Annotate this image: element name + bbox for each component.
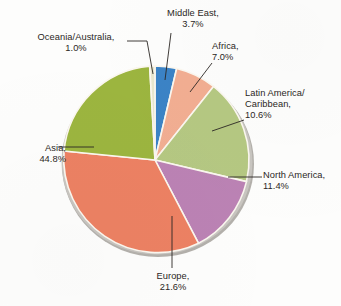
pie-label-latin-america: Latin America/ Caribbean, 10.6% bbox=[245, 88, 339, 122]
pie-slice-asia[interactable] bbox=[64, 66, 155, 160]
pie-label-asia: Asia, 44.8% bbox=[8, 143, 66, 165]
pie-label-oceania-australia: Oceania/Australia, 1.0% bbox=[22, 32, 130, 54]
pie-label-africa: Africa, 7.0% bbox=[212, 41, 272, 63]
pie-label-middle-east: Middle East, 3.7% bbox=[152, 8, 234, 30]
pie-chart-figure: Middle East, 3.7% Oceania/Australia, 1.0… bbox=[0, 0, 341, 306]
pie-slices bbox=[64, 66, 249, 253]
pie-label-north-america: North America, 11.4% bbox=[263, 170, 341, 192]
pie-label-europe: Europe, 21.6% bbox=[138, 271, 208, 293]
